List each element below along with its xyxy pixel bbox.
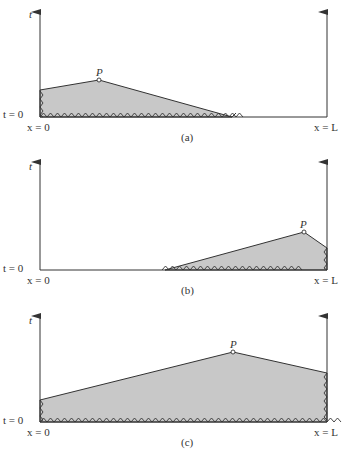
label-t0-b: t = 0 — [3, 262, 24, 274]
label-x0-c: x = 0 — [27, 426, 50, 438]
caption-a: (a) — [181, 131, 194, 144]
label-t-axis-c: t — [29, 314, 33, 326]
diagram-canvas: P t t = 0 x = 0 x = L (a) P t t = 0 x = … — [0, 0, 352, 463]
label-p-b: P — [299, 218, 307, 230]
caption-b: (b) — [181, 284, 194, 297]
shaded-region-b — [165, 232, 327, 270]
point-p-b — [302, 230, 306, 234]
label-t0-a: t = 0 — [3, 108, 24, 120]
caption-c: (c) — [181, 436, 194, 449]
label-xL-a: x = L — [314, 121, 338, 133]
label-x0-a: x = 0 — [27, 121, 50, 133]
label-xL-b: x = L — [314, 274, 338, 286]
label-p-a: P — [95, 66, 103, 78]
panel-b: P t t = 0 x = 0 x = L (b) — [3, 160, 338, 297]
point-p-a — [97, 78, 101, 82]
point-p-c — [231, 350, 235, 354]
shaded-region-c — [40, 352, 327, 422]
label-xL-c: x = L — [314, 426, 338, 438]
label-p-c: P — [229, 338, 237, 350]
panel-c: P t t = 0 x = 0 x = L (c) — [3, 314, 341, 449]
shaded-region-a — [40, 80, 232, 117]
label-x0-b: x = 0 — [27, 274, 50, 286]
label-t-axis-a: t — [29, 8, 33, 20]
label-t0-c: t = 0 — [3, 414, 24, 426]
panel-a: P t t = 0 x = 0 x = L (a) — [3, 8, 338, 144]
label-t-axis-b: t — [29, 160, 33, 172]
